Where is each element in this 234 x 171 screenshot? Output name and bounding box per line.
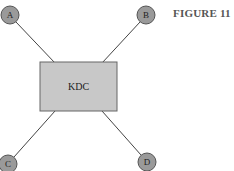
node-a: A [1,6,19,24]
edge-d-kdc [102,111,141,155]
kdc-label: KDC [68,81,89,92]
kdc-diagram: KDC A B C D [0,0,234,171]
edge-a-kdc [16,22,55,63]
node-d: D [138,153,156,171]
node-b-label: B [143,10,149,20]
node-a-label: A [7,10,14,20]
node-c: C [0,155,17,171]
node-d-label: D [144,157,151,167]
node-b: B [137,6,155,24]
node-c-label: C [5,159,11,169]
kdc-box: KDC [40,62,117,111]
edge-c-kdc [14,111,55,157]
edge-b-kdc [102,22,140,63]
